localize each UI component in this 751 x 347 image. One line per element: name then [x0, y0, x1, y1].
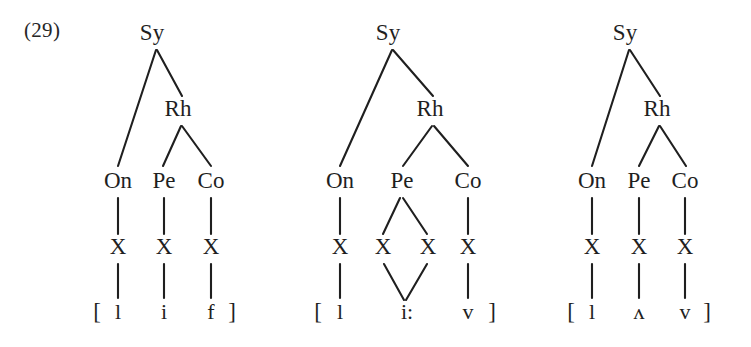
tree-3-skeletal-x-2: X — [631, 234, 648, 259]
tree-1-skeletal-x-3: X — [203, 234, 220, 259]
tree-3-segment-1: l — [589, 299, 595, 324]
tree-2-bracket-open: [ — [314, 299, 322, 324]
tree-2-node-rh: Rh — [417, 96, 444, 121]
tree-2-node-on: On — [326, 168, 355, 193]
syllable-tree-diagram: Sy Rh On Pe Co X X X [ l — [0, 0, 751, 347]
tree-1-segment-1: l — [115, 299, 121, 324]
tree-1-edge-rh-co — [182, 126, 211, 166]
tree-1-skeletal-x-2: X — [156, 234, 173, 259]
tree-3-edge-rh-pe — [639, 126, 659, 166]
tree-2: Sy Rh On Pe Co X X X X — [314, 20, 496, 324]
figure-container: (29) Sy Rh On Pe Co X X X — [0, 0, 751, 347]
tree-1-bracket-open: [ — [93, 299, 101, 324]
tree-1-edge-rh-pe — [163, 126, 181, 166]
tree-1-segment-2: i — [161, 299, 167, 324]
tree-3-skeletal-x-3: X — [677, 234, 694, 259]
tree-3-segment-3: v — [680, 299, 691, 324]
tree-1-segment-3: f — [207, 299, 215, 324]
tree-2-edge-rh-pe — [403, 126, 432, 166]
tree-3-node-pe: Pe — [628, 168, 651, 193]
tree-2-segment-3: v — [463, 299, 474, 324]
tree-1-node-pe: Pe — [153, 168, 176, 193]
tree-3-node-sy: Sy — [613, 20, 638, 45]
tree-1-edge-sy-on — [118, 50, 156, 166]
tree-1-node-co: Co — [198, 168, 225, 193]
tree-3-bracket-open: [ — [567, 299, 575, 324]
tree-2-edge-sy-rh — [393, 50, 433, 96]
tree-2-edge-pe-x2 — [383, 198, 400, 234]
tree-2-node-co: Co — [455, 168, 482, 193]
tree-1-node-rh: Rh — [165, 96, 192, 121]
tree-2-segment-1: l — [337, 299, 343, 324]
tree-3-node-co: Co — [672, 168, 699, 193]
tree-3-edge-sy-on — [592, 50, 629, 166]
tree-2-bracket-close: ] — [488, 299, 496, 324]
tree-2-skeletal-x-2: X — [375, 234, 392, 259]
tree-3-node-on: On — [578, 168, 607, 193]
tree-1-node-sy: Sy — [140, 20, 165, 45]
tree-1-edge-sy-rh — [157, 50, 182, 96]
tree-2-edge-sy-on — [340, 50, 392, 166]
tree-1: Sy Rh On Pe Co X X X [ l — [93, 20, 236, 324]
tree-2-node-pe: Pe — [391, 168, 414, 193]
tree-2-edge-rh-co — [434, 126, 468, 166]
tree-2-edge-pe-x3 — [403, 198, 427, 234]
tree-2-skeletal-x-4: X — [460, 234, 477, 259]
tree-3-skeletal-x-1: X — [584, 234, 601, 259]
tree-1-skeletal-x-1: X — [110, 234, 127, 259]
tree-3: Sy Rh On Pe Co X X X [ l ʌ v — [567, 20, 711, 324]
tree-3-segment-2: ʌ — [634, 299, 645, 324]
tree-2-edge-x3-seg-2 — [406, 264, 427, 300]
tree-3-edge-sy-rh — [630, 50, 660, 96]
tree-3-node-rh: Rh — [644, 96, 671, 121]
tree-3-bracket-close: ] — [703, 299, 711, 324]
tree-3-edge-rh-co — [660, 126, 686, 166]
tree-1-bracket-close: ] — [228, 299, 236, 324]
tree-2-edge-x2-seg-2 — [384, 264, 404, 300]
tree-2-node-sy: Sy — [376, 20, 401, 45]
tree-1-node-on: On — [104, 168, 133, 193]
tree-2-skeletal-x-1: X — [332, 234, 349, 259]
tree-2-segment-2: i: — [401, 299, 413, 324]
tree-2-skeletal-x-3: X — [420, 234, 437, 259]
